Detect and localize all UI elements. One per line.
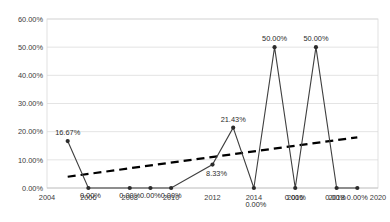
data-point-marker	[231, 126, 235, 130]
data-value-label: 50.00%	[303, 34, 328, 43]
data-point-marker	[210, 162, 214, 166]
data-value-label: 21.43%	[221, 115, 246, 124]
y-axis-tick-labels: 0.00%10.00%20.00%30.00%40.00%50.00%60.00…	[18, 15, 43, 193]
data-point-marker	[66, 139, 70, 143]
y-axis-tick-label: 20.00%	[18, 127, 43, 136]
data-value-label: 16.67%	[55, 128, 80, 137]
x-axis-tick-label: 2020	[370, 193, 386, 202]
data-value-labels: 16.67%0.00%0.00%0.00%0.00%8.33%21.43%0.0…	[55, 34, 368, 209]
x-axis-tick-label: 2012	[204, 193, 220, 202]
data-value-label: 0.00%	[245, 200, 266, 209]
y-axis-tick-label: 10.00%	[18, 156, 43, 165]
y-axis-tick-label: 40.00%	[18, 71, 43, 80]
data-point-marker	[148, 186, 152, 190]
data-point-marker	[293, 186, 297, 190]
data-value-label: 0.00%	[119, 191, 140, 200]
data-series-line	[68, 47, 358, 188]
data-point-marker	[128, 186, 132, 190]
y-axis-tick-label: 30.00%	[18, 99, 43, 108]
data-value-label: 0.00%	[140, 191, 161, 200]
data-point-marker	[169, 186, 173, 190]
x-axis-tick-label: 2004	[39, 193, 55, 202]
data-point-marker	[314, 45, 318, 49]
y-axis-tick-label: 50.00%	[18, 43, 43, 52]
data-point-marker	[86, 186, 90, 190]
data-value-label: 0.00%	[347, 193, 368, 202]
data-point-marker	[335, 186, 339, 190]
data-value-label: 0.00%	[80, 191, 101, 200]
data-point-marker	[355, 186, 359, 190]
data-value-label: 0.00%	[161, 191, 182, 200]
chart-container: 0.00%10.00%20.00%30.00%40.00%50.00%60.00…	[0, 0, 390, 222]
data-value-label: 0.00%	[285, 193, 306, 202]
data-point-marker	[252, 186, 256, 190]
y-axis-tick-label: 0.00%	[22, 184, 43, 193]
data-value-label: 0.00%	[325, 193, 346, 202]
data-point-marker	[272, 45, 276, 49]
y-axis-tick-label: 60.00%	[18, 15, 43, 24]
data-value-label: 8.33%	[206, 169, 227, 178]
data-value-label: 50.00%	[262, 34, 287, 43]
line-chart: 0.00%10.00%20.00%30.00%40.00%50.00%60.00…	[0, 0, 390, 222]
